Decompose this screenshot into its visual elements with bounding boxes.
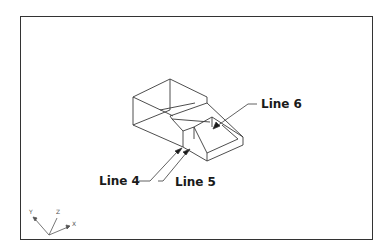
axis-y-label: Y [29, 208, 33, 215]
label-line-4: Line 4 [99, 174, 140, 188]
leader-line-6 [217, 104, 257, 126]
axis-x-label: X [72, 220, 76, 227]
label-line-5: Line 5 [175, 175, 216, 189]
label-line-6: Line 6 [261, 97, 302, 111]
axis-z-label: Z [56, 208, 60, 215]
leader-line-4 [139, 151, 178, 181]
ucs-axis-icon [33, 217, 70, 235]
